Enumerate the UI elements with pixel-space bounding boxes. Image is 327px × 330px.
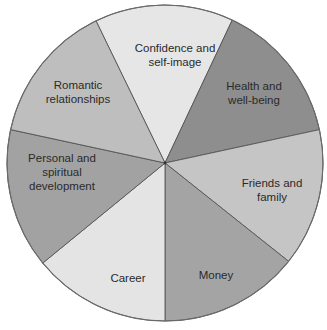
slice-label-line: Friends and [242,177,303,189]
slice-label-line: spiritual [42,166,82,178]
slice-label-line: self-image [148,56,201,68]
slice-label-line: family [257,191,287,203]
slice-label-line: Personal and [28,152,96,164]
slice-label-line: Health and [226,80,282,92]
slice-label-line: well-being [227,94,280,106]
pie-chart: Confidence andself-imageHealth andwell-b… [0,0,327,330]
slice-label-line: Romantic [54,79,103,91]
slice-label-line: Confidence and [135,42,216,54]
slice-label-line: relationships [46,93,111,105]
slice-label-line: Money [199,269,234,281]
slice-label-line: development [29,180,96,192]
slice-label-career: Career [110,272,145,284]
slice-label-line: Career [110,272,145,284]
pie-center-dot [164,162,167,165]
slice-label-money: Money [199,269,234,281]
